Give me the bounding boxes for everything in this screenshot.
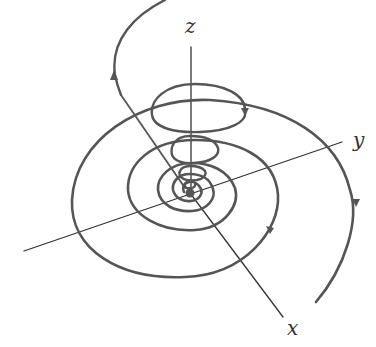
x-axis	[190, 193, 283, 317]
x-axis-label: x	[287, 316, 298, 340]
diagram-canvas: z y x	[0, 0, 376, 347]
y-axis-label: y	[353, 128, 364, 152]
conical-spiral	[114, 0, 245, 188]
arrow-up-icon	[110, 70, 118, 80]
spiral-diagram	[0, 0, 376, 347]
arrow-down-icon	[241, 108, 249, 116]
z-axis-label: z	[185, 14, 196, 38]
origin-point	[186, 189, 195, 198]
